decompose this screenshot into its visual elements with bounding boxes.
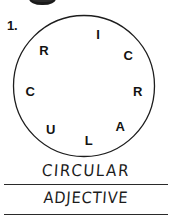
ring-letter: I [96, 27, 100, 40]
ring-letter: C [124, 49, 133, 62]
ring-letter: C [26, 84, 35, 97]
ring-letter: L [85, 133, 93, 146]
scan-artifact-blob [29, 0, 56, 5]
ring-letter: A [115, 120, 124, 133]
answer-rule-line [4, 214, 168, 215]
ring-letter: U [46, 122, 55, 135]
answer-line-word[interactable]: CIRCULAR [0, 162, 172, 188]
ring-letter: R [133, 84, 142, 97]
answer-line-part-of-speech[interactable]: ADJECTIVE [0, 190, 172, 216]
answer-text: CIRCULAR [0, 161, 172, 180]
ring-letter: R [39, 43, 48, 56]
answer-text: ADJECTIVE [0, 189, 172, 206]
circle-word-puzzle: I C R A L U C R [12, 14, 156, 158]
answer-rule-line [4, 184, 168, 185]
